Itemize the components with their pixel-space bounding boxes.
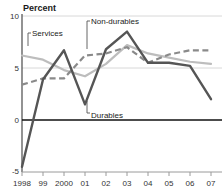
- series-label-durables: Durables: [91, 111, 123, 120]
- x-tick-label-06: 06: [186, 179, 195, 188]
- x-tick-label-05: 05: [165, 179, 174, 188]
- y-tick-label-5: 5: [15, 64, 20, 73]
- y-tick-label-10: 10: [10, 12, 19, 21]
- y-axis-title: Percent: [23, 3, 56, 13]
- y-tick-label-neg5: -5: [12, 167, 20, 176]
- series-label-non-durables: Non-durables: [91, 17, 139, 26]
- y-tick-label-0: 0: [15, 116, 20, 125]
- x-tick-label-2000: 2000: [55, 179, 73, 188]
- x-tick-label-99: 99: [39, 179, 48, 188]
- x-tick-label-03: 03: [123, 179, 132, 188]
- x-tick-label-1998: 1998: [13, 179, 31, 188]
- series-label-services: Services: [32, 29, 63, 38]
- x-tick-label-01: 01: [81, 179, 90, 188]
- x-tick-label-04: 04: [144, 179, 153, 188]
- line-chart: Percent 10 5 0 -5 1998 99 2000 01 02 03 …: [0, 0, 224, 192]
- chart-container: Percent 10 5 0 -5 1998 99 2000 01 02 03 …: [0, 0, 224, 192]
- x-tick-label-07: 07: [207, 179, 216, 188]
- x-tick-label-02: 02: [102, 179, 111, 188]
